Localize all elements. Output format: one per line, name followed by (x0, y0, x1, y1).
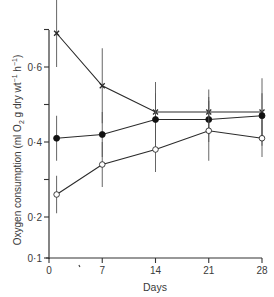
y-title-mid2: h (12, 66, 23, 74)
open-circle-marker-icon (206, 128, 212, 134)
axes: 0·10·20·40·607142128 (28, 30, 268, 277)
open-circle-marker-icon (153, 147, 159, 153)
open-circle-marker-icon (54, 192, 60, 198)
x-tick-label: 0 (46, 265, 52, 276)
series-filled-circles (54, 93, 265, 161)
open-circle-marker-icon (99, 162, 105, 168)
x-axis-title: Days (143, 281, 167, 293)
y-title-end: ) (12, 55, 23, 58)
y-tick-label: 0·1 (28, 253, 43, 264)
y-title-sup1: −1 (11, 74, 18, 82)
series-line (57, 116, 262, 139)
filled-circle-marker-icon (153, 117, 159, 123)
x-tick-label: 7 (99, 265, 105, 276)
series-line (57, 131, 262, 195)
y-tick-label: 0·6 (28, 62, 43, 73)
filled-circle-marker-icon (54, 135, 60, 141)
y-title-sup2: −1 (11, 58, 18, 66)
y-title-main: Oxygen consumption (ml O (12, 124, 23, 245)
series-line (57, 33, 262, 112)
x-tick-label: 14 (150, 265, 162, 276)
y-axis-title: Oxygen consumption (ml O2 g dry wt−1 h−1… (11, 55, 25, 246)
y-tick-label: 0·4 (28, 137, 43, 148)
y-title-mid: g dry wt (12, 82, 23, 120)
open-circle-marker-icon (259, 135, 265, 141)
series-crosses (54, 0, 264, 146)
x-tick-label: 21 (203, 265, 215, 276)
filled-circle-marker-icon (99, 132, 105, 138)
chart-plot-area: 0·10·20·40·607142128 Days Oxygen consump… (0, 0, 274, 297)
oxygen-consumption-chart: 0·10·20·40·607142128 Days Oxygen consump… (0, 0, 274, 297)
stray-mark (79, 265, 80, 267)
filled-circle-marker-icon (259, 113, 265, 119)
x-tick-label: 28 (256, 265, 268, 276)
y-tick-label: 0·2 (28, 212, 43, 223)
series-layer (54, 0, 265, 213)
